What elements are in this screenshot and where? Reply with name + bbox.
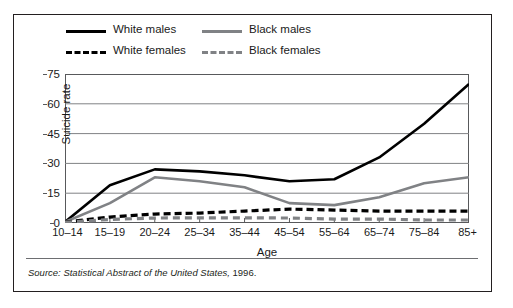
y-tick-label: 15 xyxy=(47,187,60,199)
legend-swatch-dashed-gray-icon xyxy=(202,44,242,58)
source-title: Statistical Abstract of the United State… xyxy=(63,267,230,278)
y-tick-label: 45 xyxy=(47,128,60,140)
x-tick-label: 45–54 xyxy=(274,226,305,238)
x-tick-label: 55–64 xyxy=(319,226,350,238)
legend-swatch-solid-gray-icon xyxy=(202,23,242,37)
legend-item-white-females: White females xyxy=(66,44,186,58)
x-tick-label: 10–14 xyxy=(52,226,83,238)
x-tick-label: 65–74 xyxy=(364,226,395,238)
x-tick-label: 85+ xyxy=(458,226,477,238)
y-tick-mark xyxy=(43,163,47,164)
series-line-black-females xyxy=(65,218,469,223)
y-tick-label: 60 xyxy=(47,98,60,110)
data-series-group xyxy=(65,84,469,222)
y-tick-mark xyxy=(43,104,47,105)
source-prefix: Source: xyxy=(28,267,61,278)
legend-label-white-males: White males xyxy=(113,24,176,36)
y-tick-mark xyxy=(43,134,47,135)
legend-item-white-males: White males xyxy=(66,23,176,37)
source-year: 1996. xyxy=(233,267,257,278)
y-tick-mark xyxy=(43,193,47,194)
series-line-white-males xyxy=(65,84,469,222)
legend-label-black-females: Black females xyxy=(249,45,321,57)
y-tick-mark xyxy=(50,223,54,224)
legend-swatch-dashed-black-icon xyxy=(66,44,106,58)
legend-item-black-males: Black males xyxy=(202,23,311,37)
y-axis-title: Suicide rate xyxy=(60,69,72,159)
source-divider xyxy=(26,258,478,259)
x-tick-label: 15–19 xyxy=(95,226,126,238)
y-tick-label: 75 xyxy=(47,68,60,80)
legend-item-black-females: Black females xyxy=(202,44,321,58)
line-chart-canvas xyxy=(65,74,469,223)
y-tick-label: 30 xyxy=(47,157,60,169)
chart-legend: White males White females Black males Bl… xyxy=(66,23,366,67)
legend-label-white-females: White females xyxy=(113,45,186,57)
y-tick-mark xyxy=(43,74,47,75)
legend-swatch-solid-black-icon xyxy=(66,23,106,37)
x-tick-label: 25–34 xyxy=(184,226,215,238)
figure-panel: White males White females Black males Bl… xyxy=(13,14,492,292)
x-axis-title: Age xyxy=(65,246,469,258)
plot-wrapper: Suicide rate 01530456075 10–1415–1920–24… xyxy=(65,74,469,223)
x-tick-label: 35–44 xyxy=(229,226,260,238)
x-tick-label: 20–24 xyxy=(139,226,170,238)
legend-label-black-males: Black males xyxy=(249,24,311,36)
source-note: Source: Statistical Abstract of the Unit… xyxy=(28,267,256,278)
x-tick-label: 75–84 xyxy=(409,226,440,238)
